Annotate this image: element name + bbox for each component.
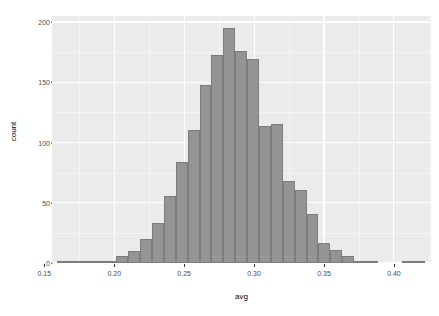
x-tick-mark <box>184 264 185 267</box>
x-tick-label: 0.35 <box>317 270 331 277</box>
histogram-bar <box>271 124 283 263</box>
histogram-bar <box>116 256 128 263</box>
x-tick-label: 0.25 <box>177 270 191 277</box>
x-axis: 0.150.200.250.300.350.40 <box>0 264 439 284</box>
histogram-bar <box>164 196 176 263</box>
histogram-bar <box>200 85 212 263</box>
histogram-bar <box>235 51 247 263</box>
gridline-minor-vertical <box>359 16 360 263</box>
x-axis-title: avg <box>52 292 431 301</box>
gridline-major-vertical <box>114 16 115 263</box>
y-tick-label: 150 <box>28 79 50 86</box>
y-axis-title-text: count <box>10 121 19 141</box>
histogram-chart: count 050100150200 0.150.200.250.300.350… <box>0 0 439 316</box>
y-tick-label: 200 <box>28 19 50 26</box>
histogram-bar <box>366 261 378 263</box>
histogram-bar <box>247 59 259 263</box>
histogram-bar <box>140 239 152 263</box>
histogram-bar <box>128 251 140 263</box>
gridline-minor-vertical <box>149 16 150 263</box>
histogram-bar <box>69 261 81 263</box>
x-tick-label: 0.40 <box>387 270 401 277</box>
histogram-bar <box>57 261 69 263</box>
y-tick-label: 100 <box>28 139 50 146</box>
histogram-bar <box>330 250 342 263</box>
histogram-bar <box>152 223 164 263</box>
histogram-bar <box>283 181 295 263</box>
gridline-minor-vertical <box>429 16 430 263</box>
gridline-major-vertical <box>393 16 394 263</box>
gridline-minor-vertical <box>79 16 80 263</box>
histogram-bar <box>342 256 354 263</box>
x-axis-title-text: avg <box>235 292 248 301</box>
histogram-bar <box>81 261 93 263</box>
histogram-bar <box>223 28 235 263</box>
histogram-bar <box>259 126 271 263</box>
x-tick-label: 0.15 <box>37 270 51 277</box>
histogram-bar <box>211 55 223 263</box>
x-tick-mark <box>254 264 255 267</box>
gridline-major-vertical <box>323 16 324 263</box>
histogram-bar <box>176 162 188 263</box>
histogram-bar <box>295 190 307 263</box>
gridline-major-horizontal <box>52 21 431 22</box>
histogram-bar <box>402 261 414 263</box>
plot-panel <box>52 16 431 263</box>
x-tick-mark <box>324 264 325 267</box>
x-tick-mark <box>44 264 45 267</box>
histogram-bar <box>188 130 200 263</box>
x-tick-label: 0.30 <box>247 270 261 277</box>
histogram-bar <box>414 261 426 263</box>
histogram-bar <box>93 261 105 263</box>
histogram-bar <box>104 261 116 263</box>
histogram-bar <box>354 261 366 263</box>
y-tick-label: 50 <box>28 199 50 206</box>
histogram-bar <box>318 243 330 263</box>
x-tick-mark <box>114 264 115 267</box>
x-tick-label: 0.20 <box>107 270 121 277</box>
histogram-bar <box>307 214 319 263</box>
x-tick-mark <box>394 264 395 267</box>
